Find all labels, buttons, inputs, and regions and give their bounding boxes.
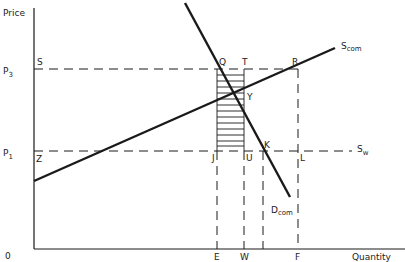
price-label-p1: P1 [3, 148, 13, 161]
point-label-z: Z [36, 154, 42, 164]
point-label-s: S [37, 57, 43, 67]
curve-label-sw: Sw [357, 144, 369, 157]
point-label-t: T [241, 57, 248, 67]
quantity-label-f: F [295, 252, 300, 262]
curve-label-dcom: Dcom [271, 205, 293, 217]
curve-label-scom: Scom [341, 41, 362, 53]
quantity-label-w: W [240, 252, 249, 262]
point-label-r: R [292, 57, 298, 67]
supply-demand-diagram: Price Quantity 0 P3 P1 E W F Scom Dcom S… [0, 0, 405, 262]
price-label-p3: P3 [3, 66, 13, 79]
x-axis-label: Quantity [352, 252, 392, 262]
supply-curve-scom [34, 48, 335, 181]
point-label-q: Q [219, 57, 226, 67]
point-label-j: J [211, 153, 215, 163]
y-axis-label: Price [3, 8, 25, 18]
demand-curve-dcom [185, 3, 290, 197]
origin-label: 0 [5, 251, 11, 261]
shaded-hatch-region [217, 69, 244, 151]
quantity-label-e: E [214, 252, 220, 262]
point-label-u: U [246, 153, 253, 163]
point-label-y: Y [246, 92, 253, 102]
point-label-l: L [300, 153, 305, 163]
point-label-k: K [264, 140, 271, 150]
